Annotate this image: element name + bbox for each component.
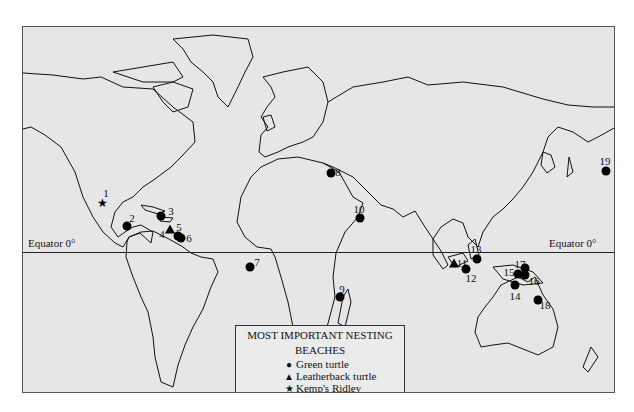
leatherback-marker-icon bbox=[165, 225, 175, 234]
triangle-icon: ▲ bbox=[282, 371, 296, 382]
site-label-6: 6 bbox=[186, 232, 192, 244]
legend-title-line1: MOST IMPORTANT NESTING bbox=[236, 330, 404, 341]
green-turtle-marker-icon bbox=[602, 167, 611, 176]
site-label-14: 14 bbox=[510, 290, 521, 302]
map-legend: MOST IMPORTANT NESTING BEACHES ● Green t… bbox=[235, 325, 405, 393]
site-label-13: 13 bbox=[471, 243, 482, 255]
site-label-2: 2 bbox=[129, 212, 135, 224]
legend-item-leatherback: ▲ Leatherback turtle bbox=[282, 370, 404, 382]
site-label-3: 3 bbox=[168, 205, 174, 217]
site-label-18: 18 bbox=[540, 299, 551, 311]
green-turtle-marker-icon bbox=[246, 263, 255, 272]
site-label-5: 5 bbox=[176, 221, 182, 233]
site-label-12: 12 bbox=[466, 272, 477, 284]
equator-line bbox=[23, 252, 614, 253]
legend-label: Leatherback turtle bbox=[296, 370, 376, 382]
green-turtle-marker-icon bbox=[157, 212, 166, 221]
site-label-4: 4 bbox=[159, 228, 165, 240]
site-label-7: 7 bbox=[254, 256, 260, 268]
legend-label: Green turtle bbox=[296, 358, 349, 370]
green-turtle-marker-icon bbox=[177, 234, 186, 243]
green-turtle-marker-icon bbox=[473, 255, 482, 264]
site-label-9: 9 bbox=[339, 283, 345, 295]
site-label-15: 15 bbox=[504, 266, 515, 278]
green-turtle-marker-icon bbox=[511, 281, 520, 290]
equator-label-right: Equator 0° bbox=[549, 237, 596, 249]
site-label-19: 19 bbox=[600, 155, 611, 167]
equator-label-left: Equator 0° bbox=[28, 237, 75, 249]
legend-label: Kemp's Ridley bbox=[296, 382, 361, 393]
site-label-8: 8 bbox=[335, 166, 341, 178]
circle-icon: ● bbox=[282, 359, 296, 370]
site-label-1: 1 bbox=[103, 187, 109, 199]
green-turtle-marker-icon bbox=[327, 169, 336, 178]
star-icon: ★ bbox=[282, 383, 296, 394]
legend-item-green-turtle: ● Green turtle bbox=[282, 358, 404, 370]
legend-title-line2: BEACHES bbox=[236, 345, 404, 356]
site-label-16: 16 bbox=[529, 275, 540, 287]
world-map: Equator 0° Equator 0° ★ 1 2 3 4 5 6 7 8 … bbox=[22, 26, 615, 393]
site-label-10: 10 bbox=[354, 203, 365, 215]
site-label-17: 17 bbox=[515, 258, 526, 270]
legend-item-kemps-ridley: ★ Kemp's Ridley bbox=[282, 382, 404, 393]
